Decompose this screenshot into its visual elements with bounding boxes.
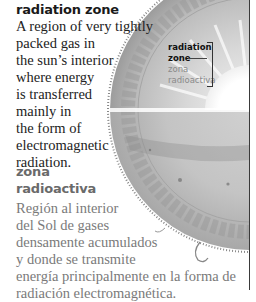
term-spanish-line: zona [16,163,126,180]
definition-line: densamente acumulados [16,234,246,251]
definition-line: where energy [16,69,146,86]
label-leader-line [188,58,207,59]
definition-line: del Sol de gases [16,217,246,234]
definition-line: energía principalmente en la forma de [16,268,246,285]
definition-line: electromagnetic [16,137,146,154]
definition-line: radiación electromagnética. [16,285,246,302]
definition-line: y donde se transmite [16,251,246,268]
definition-line: mainly in [16,103,146,120]
column-divider [249,0,250,290]
definition-line: the form of [16,120,146,137]
label-bracket [207,42,213,87]
term-spanish-line: radioactiva [16,180,126,197]
definition-line: A region of very tightly [16,18,146,35]
definition-spanish: Región al interior del Sol de gases dens… [16,200,246,302]
definition-line: Región al interior [16,200,246,217]
term-spanish: zona radioactiva [16,163,126,197]
definition-line: the sun’s interior [16,52,146,69]
definition-line: packed gas in [16,35,146,52]
definition-english: A region of very tightly packed gas in t… [16,18,146,171]
definition-line: is transferred [16,86,146,103]
term-english: radiation zone [16,2,119,17]
